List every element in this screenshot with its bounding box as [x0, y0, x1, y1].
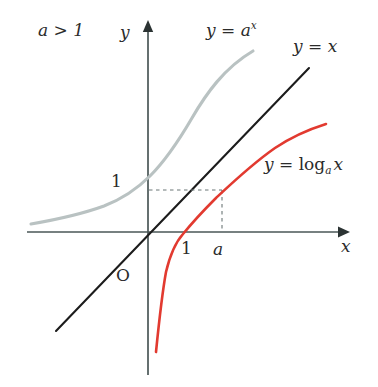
- origin-label: O: [116, 267, 130, 284]
- logarithm-curve-label: y = logax: [264, 156, 343, 173]
- exponential-curve-label: y = ax: [206, 22, 257, 39]
- y-axis: [143, 20, 153, 375]
- condition-label: a > 1: [38, 22, 84, 39]
- exponential-label-lhs: y =: [206, 20, 241, 40]
- y-tick-label-one: 1: [111, 173, 122, 190]
- plot-canvas: [0, 0, 378, 387]
- exponential-label-base: a: [241, 20, 251, 40]
- x-tick-label-one: 1: [181, 240, 192, 257]
- y-axis-arrow-icon: [143, 20, 153, 32]
- logarithm-label-fn: log: [299, 154, 326, 174]
- logarithm-label-base: a: [325, 164, 331, 176]
- math-figure: a > 1 y x y = ax y = x y = logax O 1 1 a: [0, 0, 378, 387]
- exponential-curve: [31, 51, 253, 224]
- x-axis-label: x: [341, 238, 351, 255]
- identity-line: [56, 68, 309, 331]
- logarithm-label-lhs: y =: [264, 154, 299, 174]
- logarithm-label-arg: x: [332, 154, 344, 174]
- identity-line-label: y = x: [293, 38, 337, 55]
- y-axis-label: y: [120, 24, 130, 41]
- x-tick-label-a: a: [213, 241, 223, 258]
- exponential-label-exponent: x: [251, 19, 257, 31]
